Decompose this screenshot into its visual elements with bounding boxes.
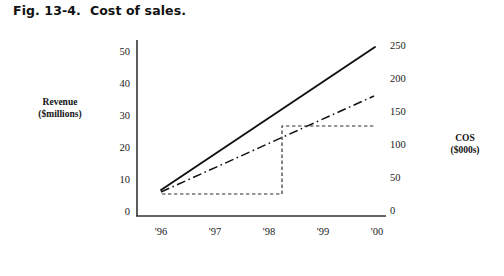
chart-plot-area: Revenue ($millions) COS ($000s) 50 40 30… xyxy=(0,0,504,276)
cos-step-dashed-line xyxy=(162,126,375,194)
revenue-solid-line xyxy=(161,47,375,190)
cos-dash-dot-line xyxy=(161,96,374,192)
chart-svg xyxy=(0,0,504,276)
